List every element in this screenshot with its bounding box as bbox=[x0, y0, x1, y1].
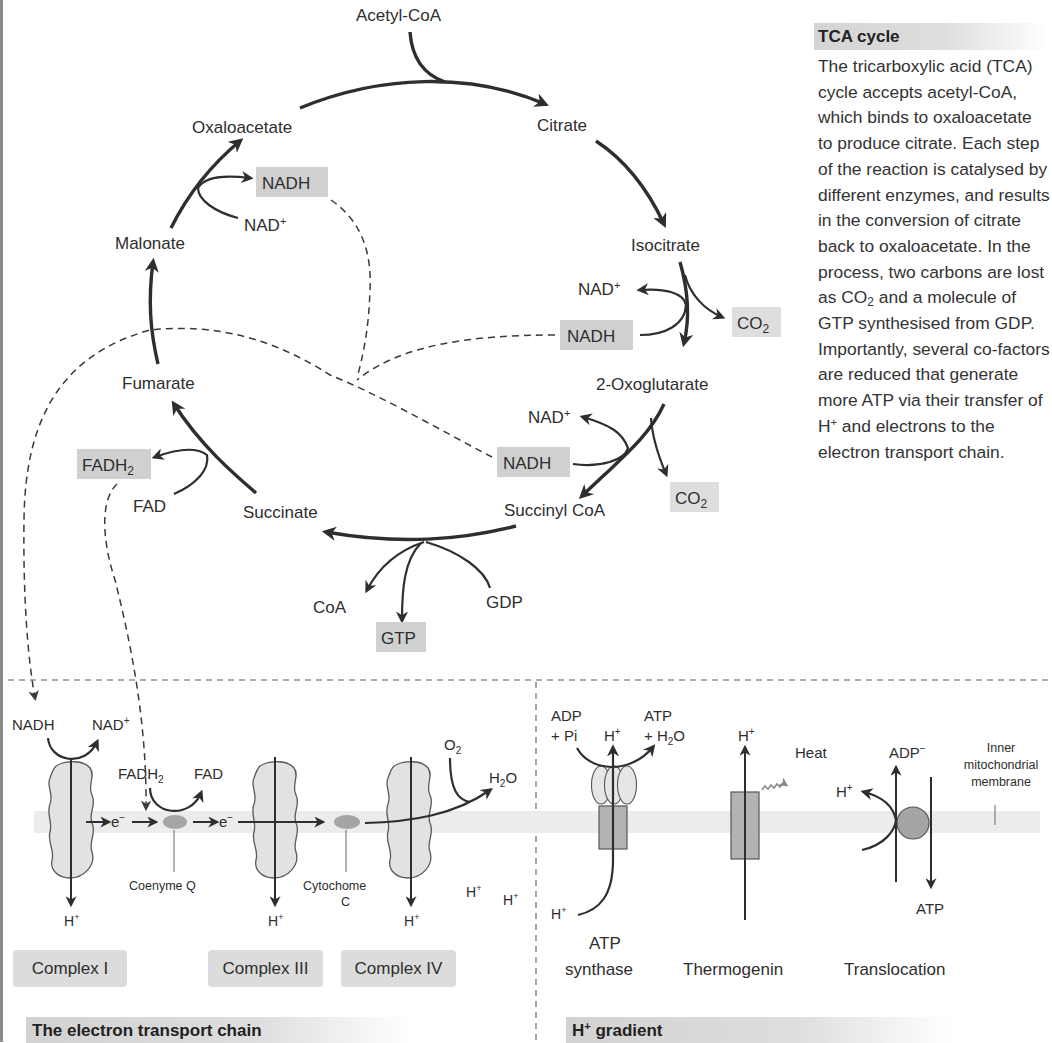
gtp-release-arrow bbox=[402, 543, 421, 620]
nadh-oxidation-arrow bbox=[48, 738, 97, 759]
oxoglutarate-label: 2-Oxoglutarate bbox=[596, 375, 708, 394]
nadh-label-3: NADH bbox=[503, 454, 551, 473]
coenzyme-q-carrier bbox=[163, 815, 187, 829]
etc-nadh-label: NADH bbox=[12, 716, 55, 733]
complex-i-proton-label: H+ bbox=[64, 912, 79, 929]
intermembrane-proton-label-2: H+ bbox=[503, 891, 518, 908]
cytochrome-label-line2: C bbox=[341, 895, 350, 909]
h-gradient-title-main: H bbox=[572, 1021, 584, 1040]
tca-cycle-panel-title: TCA cycle bbox=[814, 23, 1050, 50]
membrane-label-line3: membrane bbox=[971, 775, 1031, 789]
h-gradient-title-rest: gradient bbox=[591, 1021, 663, 1040]
oxygen-uptake-arrow bbox=[450, 758, 470, 802]
complex-i-tag: Complex I bbox=[13, 950, 127, 987]
panel-body-text-3: and electrons to the electron transport … bbox=[818, 416, 1005, 462]
co2-release-arrow-2 bbox=[651, 418, 666, 474]
fumarate-label: Fumarate bbox=[122, 374, 195, 393]
coenzyme-q-label: Coenyme Q bbox=[129, 879, 196, 893]
acetyl-coa-label: Acetyl-CoA bbox=[356, 6, 442, 25]
atp-synthase-proton-top-label: H+ bbox=[604, 726, 621, 744]
h2o-product-label: + H2O bbox=[644, 727, 685, 747]
adp-label: ADP bbox=[551, 707, 582, 724]
water-label: H2O bbox=[489, 769, 517, 789]
fadh2-oxidation-arrow bbox=[150, 788, 201, 811]
tca-cycle-info-panel: TCA cycle The tricarboxylic acid (TCA) c… bbox=[814, 23, 1050, 465]
etc-fad-label: FAD bbox=[194, 765, 223, 782]
fumarate-to-malonate-arrow bbox=[150, 262, 158, 364]
complex-iii-tag: Complex III bbox=[208, 950, 323, 987]
panel-body-subscript: 2 bbox=[867, 295, 874, 309]
heat-release-arrow bbox=[762, 783, 786, 790]
nadh-2-transfer-line bbox=[357, 335, 555, 380]
oxaloacetate-label: Oxaloacetate bbox=[192, 118, 292, 137]
atp-synthase-label-line1: ATP bbox=[589, 934, 621, 953]
cytochrome-c-carrier bbox=[334, 815, 360, 829]
succinyl-coa-to-succinate-arrow bbox=[326, 526, 516, 540]
acetyl-coa-entry-arrow bbox=[410, 32, 445, 82]
fadh2-to-coenzyme-q-transfer-line bbox=[105, 484, 146, 808]
cytochrome-label-line1: Cytochome bbox=[303, 879, 366, 893]
gdp-uptake-arrow bbox=[426, 542, 490, 588]
co2-release-arrow-1 bbox=[685, 275, 722, 317]
atp-synthesis-arrow bbox=[577, 747, 653, 767]
atp-synthase-f1-right bbox=[618, 766, 637, 804]
nadh-label-2: NADH bbox=[567, 327, 615, 346]
atp-synthase-label-line2: synthase bbox=[565, 960, 633, 979]
nadh-label-1: NADH bbox=[262, 174, 310, 193]
translocation-adp-label: ADP− bbox=[889, 743, 926, 761]
intermembrane-proton-label-1: H+ bbox=[466, 883, 481, 900]
succinate-label: Succinate bbox=[243, 503, 318, 522]
coa-label: CoA bbox=[313, 598, 347, 617]
fad-reduction-arrow bbox=[155, 450, 207, 494]
citrate-to-isocitrate-arrow bbox=[596, 141, 664, 224]
translocase-protein bbox=[897, 807, 929, 839]
h-gradient-title: H+ gradient bbox=[566, 1017, 952, 1043]
translocation-proton-label: H+ bbox=[836, 782, 853, 800]
heat-label: Heat bbox=[795, 744, 828, 761]
etc-fadh2-label: FADH2 bbox=[118, 765, 164, 785]
citrate-label: Citrate bbox=[537, 116, 587, 135]
tca-cycle: Acetyl-CoA Oxaloacetate Citrate Isocitra… bbox=[24, 6, 781, 808]
membrane-label-line1: Inner bbox=[987, 741, 1016, 755]
complex-iv-proton-label: H+ bbox=[404, 912, 419, 929]
nad-label-1: NAD+ bbox=[244, 215, 286, 235]
gdp-label: GDP bbox=[486, 593, 523, 612]
succinate-to-fumarate-arrow bbox=[174, 404, 256, 493]
complex-iv-tag: Complex IV bbox=[341, 950, 456, 987]
oxygen-label: O2 bbox=[444, 736, 462, 756]
etc-nad-label: NAD+ bbox=[92, 715, 130, 733]
oxaloacetate-to-citrate-arrow bbox=[300, 82, 545, 108]
isocitrate-label: Isocitrate bbox=[631, 236, 700, 255]
translocation-label: Translocation bbox=[844, 960, 945, 979]
nad-reduction-arrow-3 bbox=[573, 417, 628, 465]
complex-iii-proton-label: H+ bbox=[268, 912, 283, 929]
malonate-label: Malonate bbox=[115, 234, 185, 253]
gtp-label: GTP bbox=[381, 629, 416, 648]
fad-label: FAD bbox=[133, 497, 166, 516]
thermogenin-label: Thermogenin bbox=[683, 960, 783, 979]
nadh-1-transfer-line bbox=[331, 200, 370, 378]
thermogenin-proton-label: H+ bbox=[738, 726, 755, 744]
nad-label-3: NAD+ bbox=[528, 407, 570, 427]
oxoglutarate-to-succinyl-coa-arrow bbox=[582, 404, 664, 496]
nad-reduction-arrow-1 bbox=[198, 177, 250, 218]
panel-body-text-1: The tricarboxylic acid (TCA) cycle accep… bbox=[818, 56, 1050, 307]
nad-label-2: NAD+ bbox=[578, 279, 620, 299]
tca-cycle-panel-body: The tricarboxylic acid (TCA) cycle accep… bbox=[818, 54, 1050, 465]
atp-synthase-proton-bottom-label: H+ bbox=[551, 905, 566, 922]
nad-reduction-arrow-2 bbox=[640, 290, 686, 335]
translocation-atp-label: ATP bbox=[916, 900, 944, 917]
h-gradient-section: ADP + Pi H+ ATP + H2O H+ ATP synthase H+… bbox=[551, 707, 1038, 979]
electron-transport-chain-title: The electron transport chain bbox=[26, 1017, 412, 1043]
membrane-label-line2: mitochondrial bbox=[964, 758, 1038, 772]
atp-product-label: ATP bbox=[644, 707, 672, 724]
fadh2-label: FADH2 bbox=[82, 456, 134, 478]
panel-body-text-2: and a molecule of GTP synthesised from G… bbox=[818, 287, 1050, 436]
pi-label: + Pi bbox=[551, 727, 577, 744]
succinyl-coa-label: Succinyl CoA bbox=[504, 501, 606, 520]
